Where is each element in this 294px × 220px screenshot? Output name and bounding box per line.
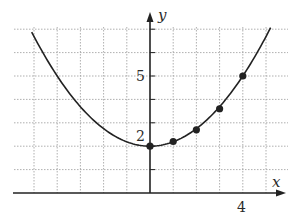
y-axis-arrow-icon	[147, 12, 154, 22]
x-axis-label: x	[272, 173, 281, 191]
y-tick-label-5: 5	[136, 68, 145, 84]
y-tick-label-2: 2	[136, 128, 145, 144]
data-point	[193, 126, 200, 133]
data-point	[216, 105, 223, 112]
data-point	[170, 138, 177, 145]
parabola-curve	[32, 28, 271, 147]
data-point	[239, 72, 246, 79]
axes	[13, 12, 286, 197]
parabola-chart: y x 4 2 5	[0, 0, 294, 220]
y-axis-label: y	[157, 6, 167, 24]
data-point	[146, 143, 153, 150]
x-tick-label-4: 4	[237, 199, 246, 215]
grid-lines	[14, 27, 288, 193]
